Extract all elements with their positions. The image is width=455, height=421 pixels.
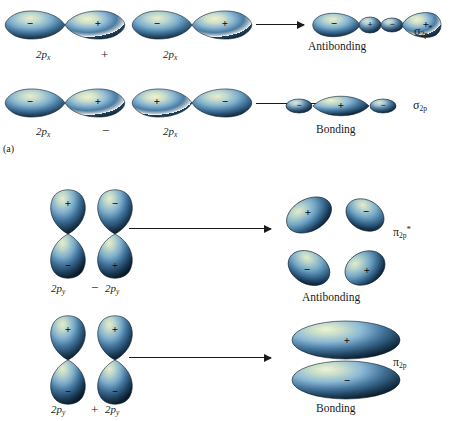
orbital-label-row3-right: 2py — [105, 283, 119, 296]
arrow-row3 — [129, 228, 271, 229]
orbital-label-row2-left: 2px — [36, 126, 50, 139]
orbital-label-row2-right: 2px — [163, 126, 177, 139]
operator-row1: + — [101, 48, 108, 61]
orbital-label-row4-right: 2py — [105, 404, 119, 417]
pi-bonding-orbital: + − — [291, 318, 401, 402]
result-symbol-row1: σ2p* — [414, 24, 432, 39]
p-orbital-row4-right: + − — [92, 310, 138, 410]
panel-label: (a) — [3, 144, 14, 154]
orbital-label-row1-left: 2px — [36, 49, 50, 62]
p-orbital-row3-right: − + — [92, 184, 138, 284]
orbital-label-row3-left: 2py — [51, 283, 65, 296]
arrow-row4 — [129, 357, 271, 358]
operator-row2: − — [102, 124, 109, 137]
result-caption-row3: Antibonding — [302, 292, 360, 304]
p-orbital-row1-left: − + — [4, 8, 126, 42]
result-symbol-row3: π2p* — [393, 225, 411, 240]
molecular-orbital-diagram: − + 2px + − + 2px − + − + Antibonding — [0, 0, 455, 421]
p-orbital-row2-right: + − — [131, 86, 253, 120]
orbital-label-row4-left: 2py — [51, 404, 65, 417]
p-orbital-row1-right: − + — [131, 8, 253, 42]
sigma-bonding-orbital: − + − — [285, 92, 397, 120]
result-caption-row2: Bonding — [316, 124, 356, 136]
p-orbital-row3-left: + − — [45, 184, 91, 284]
orbital-label-row1-right: 2px — [163, 49, 177, 62]
result-caption-row4: Bonding — [316, 403, 356, 415]
result-caption-row1: Antibonding — [308, 41, 366, 53]
arrow-row1 — [256, 24, 304, 25]
result-symbol-row4: π2p — [393, 355, 407, 370]
p-orbital-row2-left: − + — [4, 86, 126, 120]
result-symbol-row2: σ2p — [413, 98, 427, 113]
p-orbital-row4-left: + − — [45, 310, 91, 410]
pi-antibonding-orbital: + − − + — [281, 190, 391, 295]
